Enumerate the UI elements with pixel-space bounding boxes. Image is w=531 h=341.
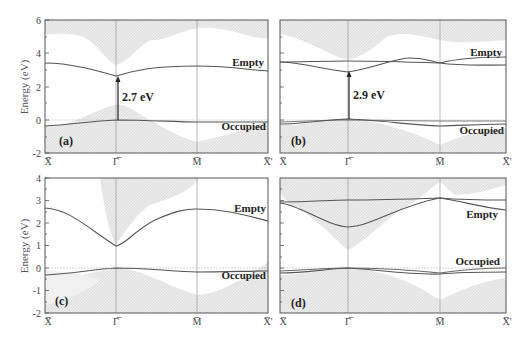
kpoint-c-Gamma: Γ̅ — [113, 316, 122, 327]
empty-label-d: Empty — [466, 208, 498, 220]
gap-label-b: 2.9 eV — [353, 88, 385, 102]
kpoint-b-M: M̅ — [436, 156, 445, 167]
panel-label-a: (a) — [59, 134, 73, 148]
kpoint-a-Xp: X̅' — [263, 156, 272, 167]
gap-label-a: 2.7 eV — [122, 90, 154, 104]
empty-label-a: Empty — [232, 56, 264, 68]
occupied-label-c: Occupied — [221, 269, 266, 281]
band-structure-figure: Energy (eV) Energy (eV) 2.7 eV Empty Occ… — [0, 0, 531, 341]
panel-d: Empty Occupied (d) X̅ Γ̅ M̅ X̅' — [279, 178, 511, 327]
ytick-c-3: 3 — [36, 195, 41, 206]
y-axis-label-bottom: Energy (eV) — [18, 218, 31, 273]
ytick-c-2: 2 — [36, 218, 41, 229]
panel-label-b: (b) — [291, 134, 306, 148]
occupied-label-d: Occupied — [455, 255, 500, 267]
y-axis-label-top: Energy (eV) — [18, 59, 31, 114]
kpoint-a-Gamma: Γ̅ — [113, 156, 122, 167]
panel-a: 2.7 eV Empty Occupied (a) -2 0 2 4 6 X̅ … — [33, 15, 273, 167]
kpoint-c-X: X̅ — [44, 316, 52, 327]
kpoint-b-Gamma: Γ̅ — [345, 156, 354, 167]
ytick-c-1: 1 — [36, 240, 41, 251]
empty-label-b: Empty — [470, 46, 502, 58]
kpoint-d-Gamma: Γ̅ — [345, 316, 354, 327]
panel-label-c: (c) — [55, 294, 68, 308]
kpoint-a-X: X̅ — [44, 156, 52, 167]
kpoint-b-Xp: X̅' — [502, 156, 511, 167]
ytick-c-4: 4 — [36, 173, 41, 184]
panel-b: 2.9 eV Empty Occupied (b) X̅ Γ̅ M̅ X̅' — [279, 20, 511, 167]
ytick-c--2: -2 — [33, 308, 41, 319]
empty-label-c: Empty — [234, 202, 266, 214]
ytick-a-0: 0 — [36, 115, 41, 126]
kpoint-c-M: M̅ — [193, 316, 202, 327]
kpoint-d-M: M̅ — [436, 316, 445, 327]
panel-c: Empty Occupied (c) -2 -1 0 1 2 3 4 X̅ Γ̅… — [33, 173, 273, 327]
kpoint-b-X: X̅ — [279, 156, 287, 167]
ytick-a-2: 2 — [36, 82, 41, 93]
ytick-c--1: -1 — [33, 285, 41, 296]
ytick-a-4: 4 — [36, 48, 41, 59]
kpoint-d-Xp: X̅' — [502, 316, 511, 327]
kpoint-d-X: X̅ — [279, 316, 287, 327]
kpoint-c-Xp: X̅' — [263, 316, 272, 327]
ytick-a--2: -2 — [33, 148, 41, 159]
ytick-c-0: 0 — [36, 263, 41, 274]
occupied-label-a: Occupied — [221, 120, 266, 132]
kpoint-a-M: M̅ — [193, 156, 202, 167]
ytick-a-6: 6 — [36, 15, 41, 26]
occupied-label-b: Occupied — [459, 124, 504, 136]
panel-label-d: (d) — [291, 296, 306, 310]
